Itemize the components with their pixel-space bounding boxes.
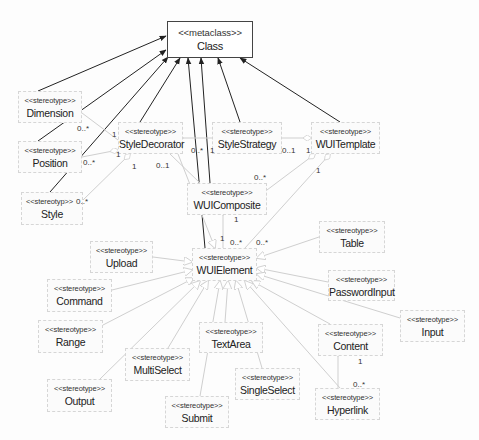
stereotype-label: <<stereotyp>> <box>22 197 82 206</box>
stereotype-style[interactable]: <<stereotyp>> Style <box>21 192 83 225</box>
class-name: Upload <box>91 257 152 269</box>
class-name: PasswordInput <box>329 286 394 298</box>
stereotype-position[interactable]: <<stereotype>> Position <box>18 141 82 173</box>
class-name: Hyperlink <box>316 404 379 416</box>
stereotype-label: <<stereotype>> <box>316 393 379 402</box>
stereotype-input[interactable]: <<stereotype>> Input <box>400 310 465 342</box>
class-name: StyleDecorator <box>119 138 182 150</box>
class-name: StyleStrategy <box>213 138 281 150</box>
stereotype-label: <<stereotype>> <box>19 146 81 155</box>
class-name: Submit <box>166 412 228 424</box>
multiplicity-label: 0..* <box>230 238 242 247</box>
stereotype-submit[interactable]: <<stereotype>> Submit <box>165 396 229 428</box>
metaclass-stereotype: <<metaclass>> <box>168 27 252 38</box>
stereotype-label: <<stereotype>> <box>48 284 111 293</box>
stereotype-label: <<stereotype>> <box>39 325 102 334</box>
stereotype-passwordinput[interactable]: <<stereotype>> PasswordInput <box>328 270 395 301</box>
class-name: Position <box>19 157 81 169</box>
class-name: Input <box>401 326 464 338</box>
multiplicity-label: 1 <box>116 150 120 159</box>
stereotype-label: <<stereotype>> <box>126 353 189 362</box>
stereotype-command[interactable]: <<stereotype>> Command <box>47 279 112 312</box>
class-name: WUITemplate <box>312 138 379 150</box>
multiplicity-label: 1 <box>112 130 116 139</box>
stereotype-singleselect[interactable]: <<stereotype>> SingleSelect <box>235 368 300 400</box>
stereotype-label: <<stereotype>> <box>213 127 281 136</box>
multiplicity-label: 0..* <box>353 380 365 389</box>
metaclass-class[interactable]: <<metaclass>> Class <box>167 21 253 58</box>
stereotype-hyperlink[interactable]: <<stereotype>> Hyperlink <box>315 388 380 420</box>
multiplicity-label: 1 <box>316 166 320 175</box>
multiplicity-label: 1 <box>234 215 238 224</box>
stereotype-label: <<stereotype>> <box>166 401 228 410</box>
stereotype-label: <<stereotype>> <box>119 127 182 136</box>
multiplicity-label: 0..1 <box>282 146 295 155</box>
stereotype-table[interactable]: <<stereotype>> Table <box>319 221 385 253</box>
multiplicity-label: 0..* <box>83 158 95 167</box>
extension-arrows <box>38 36 340 248</box>
stereotype-label: <<stereotype>> <box>401 315 464 324</box>
stereotype-label: <<stereotype>> <box>200 327 262 336</box>
class-name: Range <box>39 336 102 348</box>
stereotype-output[interactable]: <<stereotype>> Output <box>47 379 112 412</box>
stereotype-label: <<stereotype>> <box>91 246 152 255</box>
stereotype-label: <<stereotype>> <box>188 188 266 197</box>
multiplicity-label: 0..* <box>191 146 203 155</box>
stereotype-label: <<stereotype>> <box>329 275 394 284</box>
class-name: Command <box>48 295 111 307</box>
uml-diagram-canvas: <<metaclass>> Class <<stereotype>> Dimen… <box>0 0 479 440</box>
class-name: SingleSelect <box>236 384 299 396</box>
stereotype-content[interactable]: <<stereotype>> Content <box>318 324 383 356</box>
multiplicity-label: 1 <box>210 146 214 155</box>
stereotype-wuicomposite[interactable]: <<stereotype>> WUIComposite <box>187 183 267 215</box>
stereotype-label: <<stereotype>> <box>193 253 256 262</box>
class-name: Table <box>320 237 384 249</box>
stereotype-label: <<stereotype>> <box>312 127 379 136</box>
stereotype-upload[interactable]: <<stereotype>> Upload <box>90 241 153 273</box>
class-name: WUIComposite <box>188 199 266 211</box>
stereotype-stylestrategy[interactable]: <<stereotype>> StyleStrategy <box>212 122 282 154</box>
class-name: TextArea <box>200 338 262 350</box>
stereotype-wuielement[interactable]: <<stereotype>> WUIElement <box>192 248 257 281</box>
stereotype-label: <<stereotype>> <box>319 329 382 338</box>
multiplicity-label: 1 <box>358 357 362 366</box>
stereotype-wuitemplate[interactable]: <<stereotype>> WUITemplate <box>311 122 380 154</box>
multiplicity-label: 1 <box>132 162 136 171</box>
class-name: Content <box>319 340 382 352</box>
stereotype-multiselect[interactable]: <<stereotype>> MultiSelect <box>125 348 190 381</box>
multiplicity-label: 0..* <box>77 124 89 133</box>
stereotype-label: <<stereotype>> <box>48 384 111 393</box>
multiplicity-label: 0..* <box>76 197 88 206</box>
stereotype-dimension[interactable]: <<stereotype>> Dimension <box>18 91 82 123</box>
class-name: Output <box>48 395 111 407</box>
stereotype-styledecorator[interactable]: <<stereotype>> StyleDecorator <box>118 122 183 154</box>
stereotype-label: <<stereotype>> <box>236 373 299 382</box>
class-name: Style <box>22 208 82 220</box>
metaclass-name: Class <box>168 40 252 52</box>
stereotype-textarea[interactable]: <<stereotype>> TextArea <box>199 322 263 353</box>
multiplicity-label: 1 <box>220 234 224 243</box>
class-name: MultiSelect <box>126 364 189 376</box>
stereotype-label: <<stereotype>> <box>320 226 384 235</box>
multiplicity-label: 0..* <box>256 238 268 247</box>
stereotype-label: <<stereotype>> <box>19 96 81 105</box>
multiplicity-label: 1 <box>306 146 310 155</box>
multiplicity-label: 0..1 <box>156 161 169 170</box>
class-name: Dimension <box>19 107 81 119</box>
multiplicity-label: 0..* <box>254 173 266 182</box>
stereotype-range[interactable]: <<stereotype>> Range <box>38 320 103 353</box>
class-name: WUIElement <box>193 264 256 276</box>
